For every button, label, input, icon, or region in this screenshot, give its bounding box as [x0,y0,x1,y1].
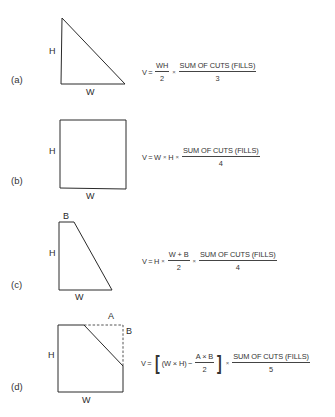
fraction-sum-of-cuts: SUM OF CUTS (FILLS) 4 [199,250,277,272]
formula-c: V = H × W + B 2 × SUM OF CUTS (FILLS) 4 [142,250,278,272]
lhs: V [141,359,146,368]
formula-b: V = W × H × SUM OF CUTS (FILLS) 4 [142,146,261,168]
equals: = [148,68,152,77]
part-label-d: (d) [11,382,23,392]
part-label-b: (b) [11,176,23,186]
lhs: V [142,68,147,77]
formula-d: V = [ (W × H) − A × B 2 ] × SUM OF CUTS … [141,352,311,374]
part-label-a: (a) [11,75,23,85]
close-bracket: ] [217,355,222,371]
h-term: H [154,257,159,266]
formula-a: V = WH 2 × SUM OF CUTS (FILLS) 3 [142,61,257,83]
width-label-d: W [82,396,91,405]
part-label-c: (c) [11,280,22,290]
open-bracket: [ [155,355,160,371]
wh-term: (W × H) [162,359,187,368]
cut-b-label-d: B [126,327,132,336]
fraction-a-times-b-over-2: A × B 2 [195,352,214,374]
equals: = [148,153,152,162]
lhs: V [142,153,147,162]
times-sign: × [226,360,229,366]
trapezoid-shape [59,222,112,290]
h-term: H [168,153,173,162]
equals: = [147,359,151,368]
height-label-b: H [49,147,56,156]
fraction-sum-of-cuts: SUM OF CUTS (FILLS) 4 [182,146,260,168]
times-sign: × [193,258,196,264]
height-label-a: H [49,47,56,56]
cut-rectangle-shape [58,325,123,392]
rectangle-shape [60,120,126,189]
triangle-shape [61,18,125,84]
width-label-c: W [75,293,84,302]
fraction-wh-over-2: WH 2 [155,61,169,83]
fraction-sum-of-cuts: SUM OF CUTS (FILLS) 5 [232,352,310,374]
height-label-c: H [49,249,56,258]
times-sign: × [161,258,164,264]
top-label-c: B [63,212,69,221]
w-term: W [154,153,161,162]
times-sign: × [163,154,166,160]
equals: = [148,257,152,266]
width-label-a: W [86,88,95,97]
minus-sign: − [188,359,192,368]
fraction-w-plus-b-over-2: W + B 2 [168,250,190,272]
lhs: V [142,257,147,266]
times-sign: × [172,69,175,75]
cut-a-label-d: A [108,312,114,321]
fraction-sum-of-cuts: SUM OF CUTS (FILLS) 3 [179,61,257,83]
height-label-d: H [48,351,55,360]
width-label-b: W [86,192,95,201]
times-sign: × [176,154,179,160]
